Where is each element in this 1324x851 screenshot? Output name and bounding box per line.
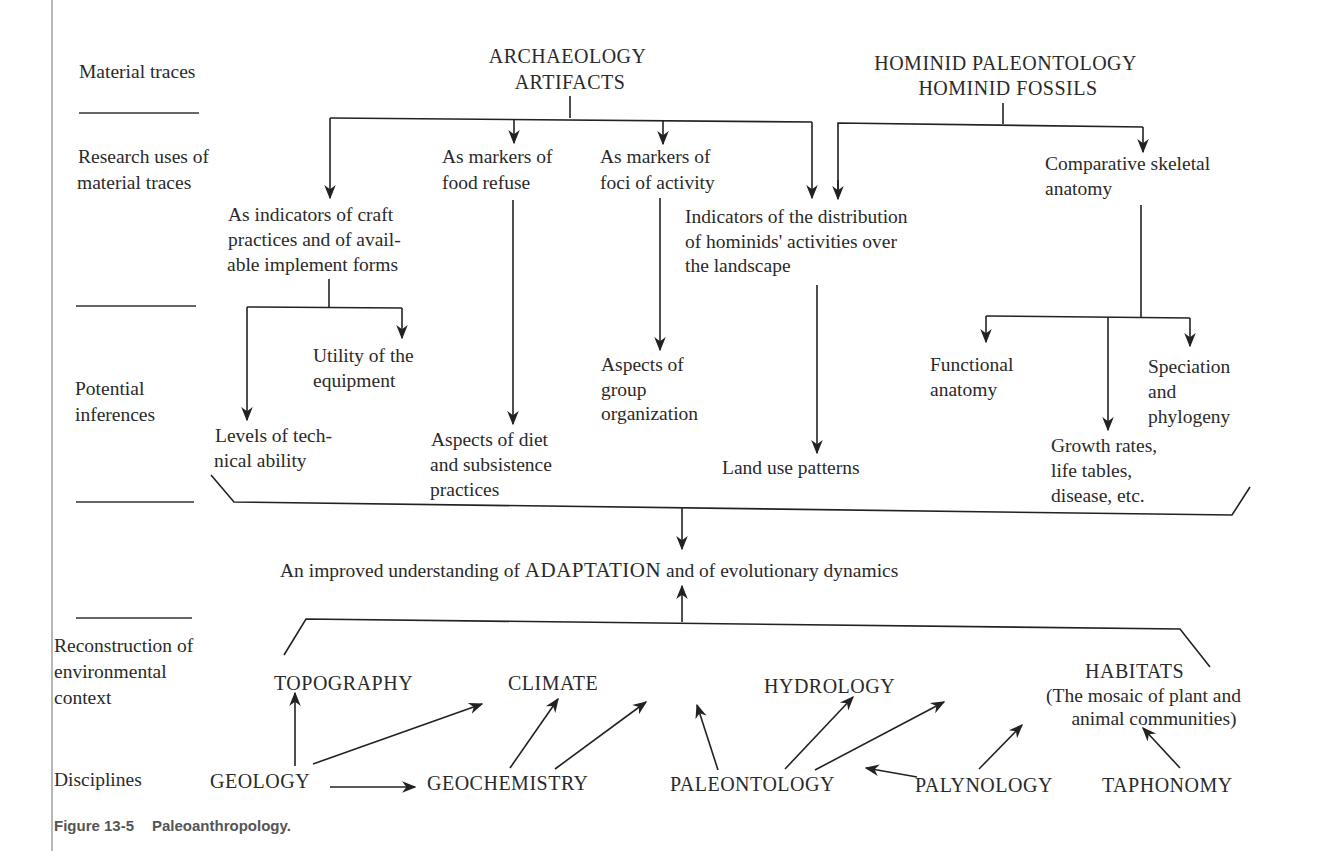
research-use-distribution: Indicators of the distribution of homini… — [685, 206, 912, 276]
research-use-foci-of-activity: As markers of foci of activity — [600, 146, 715, 193]
adaptation-statement: An improved understanding of ADAPTATION … — [280, 558, 898, 582]
row-label-research-uses: Research uses of material traces — [77, 146, 214, 193]
paleoanthropology-diagram: Material traces Research uses of materia… — [0, 0, 1324, 851]
source-archaeology: ARCHAEOLOGY ARTIFACTS — [489, 45, 651, 93]
env-hydrology: HYDROLOGY — [764, 675, 895, 697]
research-use-skeletal-anatomy: Comparative skeletal anatomy — [1045, 153, 1215, 199]
inference-land-use: Land use patterns — [722, 457, 860, 478]
row-label-material-traces: Material traces — [79, 61, 195, 82]
research-use-craft-practices: As indicators of craft practices and of … — [227, 204, 406, 275]
inference-utility: Utility of the equipment — [313, 345, 419, 391]
env-climate: CLIMATE — [508, 672, 598, 694]
figure-caption: Figure 13-5 Paleoanthropology. — [54, 817, 291, 834]
row-label-potential-inferences: Potential inferences — [75, 378, 155, 425]
row-label-disciplines: Disciplines — [54, 769, 142, 790]
inference-speciation: Speciation and phylogeny — [1148, 356, 1235, 427]
inference-functional-anatomy: Functional anatomy — [930, 354, 1018, 400]
discipline-paleontology: PALEONTOLOGY — [670, 773, 835, 795]
row-label-reconstruction: Reconstruction of environmental context — [54, 635, 198, 708]
source-hominid-paleontology: HOMINID PALEONTOLOGY HOMINID FOSSILS — [874, 52, 1142, 99]
discipline-taphonomy: TAPHONOMY — [1102, 774, 1233, 796]
discipline-palynology: PALYNOLOGY — [915, 774, 1053, 796]
research-use-food-refuse: As markers of food refuse — [442, 146, 557, 193]
env-topography: TOPOGRAPHY — [274, 672, 413, 694]
env-habitats: HABITATS (The mosaic of plant and animal… — [1046, 660, 1246, 730]
figure-title: Paleoanthropology. — [152, 817, 291, 834]
inference-technical-ability: Levels of tech- nical ability — [214, 425, 337, 471]
figure-number: Figure 13-5 — [54, 817, 134, 834]
discipline-geology: GEOLOGY — [210, 770, 310, 792]
inference-group-organization: Aspects of group organization — [601, 354, 698, 424]
inference-growth-rates: Growth rates, life tables, disease, etc. — [1051, 435, 1162, 506]
environment-bracket — [284, 619, 1210, 667]
discipline-geochemistry: GEOCHEMISTRY — [427, 772, 589, 794]
inference-diet: Aspects of diet and subsistence practice… — [430, 429, 557, 500]
archaeology-connectors — [330, 96, 812, 198]
